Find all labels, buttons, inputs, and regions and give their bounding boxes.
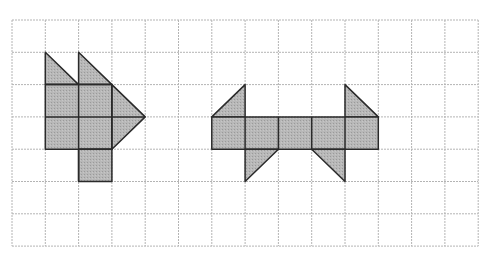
right-shape bbox=[212, 85, 378, 182]
shape-piece bbox=[79, 149, 112, 181]
shape-piece bbox=[212, 85, 245, 117]
grid-figure bbox=[0, 0, 483, 260]
shape-piece bbox=[45, 52, 78, 84]
shape-piece bbox=[212, 117, 378, 149]
shape-piece bbox=[312, 149, 345, 181]
shape-piece bbox=[79, 52, 112, 84]
left-shape bbox=[45, 52, 145, 181]
shape-piece bbox=[245, 149, 278, 181]
shape-piece bbox=[345, 85, 378, 117]
